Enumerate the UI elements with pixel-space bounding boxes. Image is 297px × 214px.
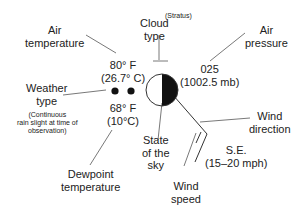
label-line: of the	[142, 147, 170, 160]
note-line: rain slight at time of	[17, 119, 78, 127]
value-line: 68° F	[107, 102, 139, 115]
label-line: sky	[142, 159, 170, 172]
wind-barb-icon	[173, 95, 207, 162]
air-pressure-label: Air pressure	[245, 24, 288, 49]
label-line: temperature	[25, 37, 84, 50]
label-line: Wind	[171, 180, 201, 193]
air-temperature-value: 80° F (26.7° C)	[101, 59, 145, 84]
value-line: (10°C)	[107, 115, 139, 128]
dewpoint-temperature-label: Dewpoint temperature	[61, 168, 120, 193]
value-line: 025	[180, 63, 239, 76]
value-line: (26.7° C)	[101, 72, 145, 85]
label-line: Weather	[26, 82, 67, 95]
label-line: Wind	[249, 110, 291, 123]
label-line: pressure	[245, 37, 288, 50]
weather-type-note: (Continuous rain slight at time of obser…	[17, 111, 78, 135]
air-temp-leader	[86, 35, 116, 53]
label-line: type	[26, 95, 67, 108]
cloud-type-note: (Stratus)	[165, 12, 192, 20]
label-line: type	[140, 30, 169, 43]
note-line: observation)	[17, 127, 78, 135]
note-line: (Continuous	[17, 111, 78, 119]
weather-type-leader	[63, 90, 106, 95]
state-of-sky-label: State of the sky	[142, 134, 170, 172]
label-line: Dewpoint	[61, 168, 120, 181]
weather-type-label: Weather type	[26, 82, 67, 107]
label-line: temperature	[61, 181, 120, 194]
label-line: direction	[249, 123, 291, 136]
label-line: Cloud	[140, 17, 169, 30]
value-line: (1002.5 mb)	[180, 76, 239, 89]
label-line: Air	[245, 24, 288, 37]
wind-speed-leader	[184, 133, 196, 166]
label-line: speed	[171, 193, 201, 206]
air-pressure-value: 025 (1002.5 mb)	[180, 63, 239, 88]
cloud-type-label: Cloud type	[140, 17, 169, 42]
sky-cover-icon	[146, 74, 178, 106]
dewpoint-value: 68° F (10°C)	[107, 102, 139, 127]
weather-dots-icon	[111, 87, 134, 94]
value-line: (15–20 mph)	[205, 157, 267, 170]
air-pressure-leader	[210, 33, 245, 61]
value-line: 80° F	[101, 59, 145, 72]
wind-direction-leader	[200, 118, 250, 122]
air-temperature-label: Air temperature	[25, 24, 84, 49]
label-line: Air	[25, 24, 84, 37]
dewpoint-leader	[90, 130, 112, 165]
wind-direction-label: Wind direction	[249, 110, 291, 135]
wind-value: S.E. (15–20 mph)	[205, 144, 267, 169]
wind-speed-label: Wind speed	[171, 180, 201, 205]
value-line: S.E.	[205, 144, 267, 157]
label-line: State	[142, 134, 170, 147]
